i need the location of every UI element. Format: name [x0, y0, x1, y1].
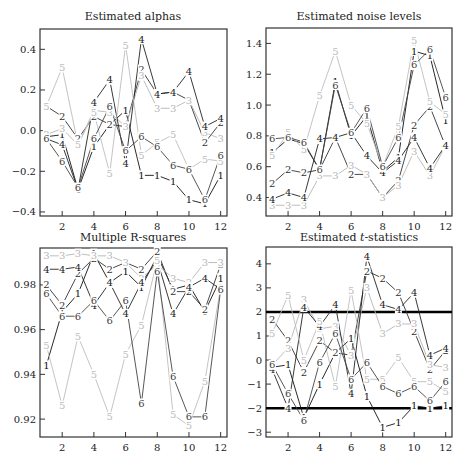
series-marker-5: 5	[443, 109, 449, 120]
series-marker-6: 6	[91, 133, 97, 144]
series-marker-6: 6	[364, 103, 370, 114]
series-marker-3: 3	[285, 343, 291, 354]
series-marker-6: 6	[316, 164, 322, 175]
series-marker-6: 6	[138, 398, 144, 409]
x-tick-label: 6	[348, 442, 354, 453]
series-marker-2: 2	[364, 266, 370, 277]
series-marker-3: 3	[364, 169, 370, 180]
series-marker-2: 2	[395, 287, 401, 298]
series-marker-1: 1	[154, 170, 160, 181]
y-tick-label: 1	[256, 330, 262, 341]
series-line-1	[46, 110, 220, 204]
series-marker-3: 3	[91, 250, 97, 261]
series-marker-3: 3	[379, 192, 385, 203]
series-marker-6: 6	[43, 133, 49, 144]
series-marker-3: 3	[348, 160, 354, 171]
series-marker-5: 5	[170, 129, 176, 140]
series-marker-1: 1	[411, 400, 417, 411]
series-marker-5: 5	[91, 369, 97, 380]
panel-estimated-t-statistics: Estimated t-statistics 24681012−3−2−1012…	[247, 231, 452, 453]
series-marker-1: 1	[217, 170, 223, 181]
series-marker-6: 6	[217, 284, 223, 295]
series-marker-4: 4	[379, 299, 385, 310]
series-marker-2: 2	[107, 119, 113, 130]
series-marker-5: 5	[75, 139, 81, 150]
x-tick-label: 12	[214, 442, 227, 453]
series-marker-4: 4	[364, 251, 370, 262]
series-marker-4: 4	[170, 308, 176, 319]
plot-area: 24681012−0.4−0.20.00.20.4111111111111222…	[12, 29, 227, 232]
series-marker-4: 4	[301, 302, 307, 313]
x-tick-label: 2	[59, 221, 65, 232]
series-marker-6: 6	[154, 266, 160, 277]
series-marker-6: 6	[217, 150, 223, 161]
x-tick-label: 10	[408, 442, 421, 453]
series-marker-1: 1	[348, 333, 354, 344]
series-marker-3: 3	[202, 257, 208, 268]
y-tick-label: 0.8	[246, 130, 262, 141]
series-marker-6: 6	[154, 141, 160, 152]
series-marker-6: 6	[269, 133, 275, 144]
series-marker-4: 4	[427, 163, 433, 174]
series-marker-4: 4	[395, 155, 401, 166]
series-marker-6: 6	[348, 127, 354, 138]
series-marker-2: 2	[332, 347, 338, 358]
series-line-4	[46, 260, 220, 314]
series-marker-5: 5	[202, 154, 208, 165]
series-marker-1: 1	[379, 422, 385, 433]
series-marker-2: 2	[170, 286, 176, 297]
y-tick-label: 0.0	[20, 125, 36, 136]
y-tick-label: 0.2	[20, 84, 36, 95]
panel-title: Multiple R-squares	[80, 231, 186, 244]
series-marker-5: 5	[154, 255, 160, 266]
series-marker-5: 5	[285, 290, 291, 301]
series-marker-3: 3	[122, 121, 128, 132]
series-marker-3: 3	[348, 350, 354, 361]
y-tick-label: 0.4	[20, 44, 36, 55]
series-marker-6: 6	[427, 44, 433, 55]
y-tick-label: −3	[247, 427, 262, 438]
series-marker-2: 2	[269, 314, 275, 325]
series-line-6	[46, 106, 220, 200]
series-marker-1: 1	[186, 194, 192, 205]
series-marker-5: 5	[395, 352, 401, 363]
y-tick-label: 1.0	[246, 100, 262, 111]
series-marker-4: 4	[186, 282, 192, 293]
series-marker-6: 6	[186, 411, 192, 422]
series-marker-6: 6	[395, 132, 401, 143]
series-marker-6: 6	[443, 92, 449, 103]
series-marker-6: 6	[59, 156, 65, 167]
series-marker-2: 2	[202, 137, 208, 148]
series-marker-2: 2	[59, 111, 65, 122]
series-marker-1: 1	[43, 360, 49, 371]
series-marker-4: 4	[443, 140, 449, 151]
y-tick-label: 1.4	[246, 38, 262, 49]
series-marker-6: 6	[427, 395, 433, 406]
series-marker-5: 5	[91, 107, 97, 118]
series-marker-4: 4	[107, 74, 113, 85]
series-marker-3: 3	[59, 250, 65, 261]
series-marker-3: 3	[59, 123, 65, 134]
series-marker-3: 3	[411, 318, 417, 329]
series-marker-5: 5	[170, 409, 176, 420]
series-marker-4: 4	[411, 132, 417, 143]
series-marker-4: 4	[138, 277, 144, 288]
series-marker-5: 5	[316, 316, 322, 327]
series-marker-1: 1	[285, 359, 291, 370]
y-tick-label: 4	[256, 258, 262, 269]
panel-estimated-alphas: Estimated alphas 24681012−0.4−0.20.00.20…	[12, 10, 227, 232]
y-tick-label: 3	[256, 282, 262, 293]
series-marker-4: 4	[316, 133, 322, 144]
series-marker-2: 2	[301, 367, 307, 378]
series-marker-4: 4	[122, 158, 128, 169]
panel-title: Estimated alphas	[85, 10, 182, 23]
series-marker-4: 4	[301, 192, 307, 203]
series-marker-1: 1	[170, 176, 176, 187]
series-marker-4: 4	[395, 304, 401, 315]
series-marker-5: 5	[122, 40, 128, 51]
x-tick-label: 12	[439, 221, 452, 232]
series-marker-4: 4	[186, 66, 192, 77]
series-marker-5: 5	[364, 118, 370, 129]
series-marker-3: 3	[427, 359, 433, 370]
x-tick-label: 2	[285, 221, 291, 232]
